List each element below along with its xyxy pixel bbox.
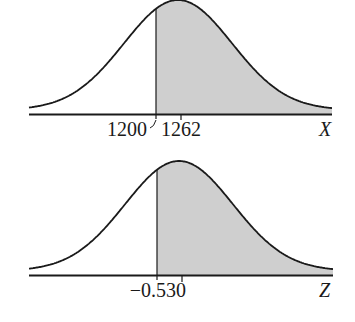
bottom-panel-z: −0.53 0 Z: [29, 161, 333, 301]
top-mean-label: 1262: [161, 118, 201, 140]
top-panel-x: 1200 1262 X: [29, 0, 332, 140]
top-axis-name: X: [318, 118, 332, 140]
top-leader-mark: [150, 120, 156, 128]
bottom-cut-label: −0.53: [130, 279, 176, 301]
normal-curves-figure: 1200 1262 X −0.53 0 Z: [0, 0, 355, 322]
bottom-mean-label: 0: [176, 279, 186, 301]
bottom-axis-name: Z: [319, 279, 331, 301]
top-cut-label: 1200: [107, 118, 147, 140]
